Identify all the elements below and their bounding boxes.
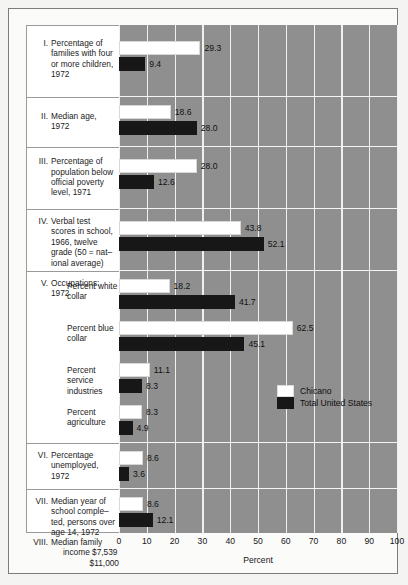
section-number: I. (31, 38, 48, 48)
gridline-70 (314, 25, 315, 533)
bar-value-label: 45.1 (248, 337, 265, 351)
category-label-v: V.Occupations:1972Percent whitecollarPer… (27, 272, 119, 444)
section-viii-note: VIII. Median family income $7,539 $11,00… (26, 537, 121, 568)
bar-value-label: 11.1 (154, 363, 170, 377)
x-tick-10: 10 (142, 536, 152, 546)
bar-chicano (119, 279, 170, 293)
bar-value-label: 4.9 (137, 421, 149, 435)
legend-label-chicano: Chicano (300, 385, 332, 397)
bar-total-us (119, 513, 153, 527)
x-tick-90: 90 (364, 536, 374, 546)
x-axis-ticks: 0102030405060708090100 (119, 536, 397, 548)
section-separator (119, 270, 397, 271)
category-label-iii: III.Percentage ofpopulation belowofficia… (27, 148, 119, 210)
section-title: Verbal testscores in school,1966, twelve… (51, 216, 113, 268)
bar-chicano (119, 497, 143, 511)
bar-value-label: 8.3 (146, 405, 158, 419)
bar-total-us (119, 421, 133, 435)
subcategory-label: Percent bluecollar (67, 323, 114, 344)
section-viii-line1: Median family (51, 537, 102, 547)
bar-chicano (119, 41, 200, 55)
section-viii-line3: $11,000 (51, 558, 121, 568)
bar-value-label: 12.6 (158, 175, 175, 189)
gridline-50 (258, 25, 259, 533)
bar-chicano (119, 221, 241, 235)
x-tick-70: 70 (309, 536, 319, 546)
category-label-ii: II.Median age,1972 (27, 98, 119, 148)
x-tick-30: 30 (198, 536, 208, 546)
category-label-column: I.Percentage offamilies with fouror more… (26, 25, 119, 533)
section-number: III. (31, 156, 48, 166)
category-label-text: I.Percentage offamilies with fouror more… (31, 38, 113, 80)
subcategory-label: Percent whitecollar (67, 281, 117, 302)
legend-swatch-chicano (277, 385, 294, 397)
section-title: Percentage offamilies with fouror more c… (51, 38, 113, 80)
bar-total-us (119, 295, 235, 309)
subcategory-label: Percentagriculture (67, 407, 106, 428)
chart-page: 29.39.418.628.028.012.643.852.118.241.76… (0, 0, 408, 585)
bar-value-label: 41.7 (239, 295, 256, 309)
section-title: Percentageunemployed,1972 (51, 450, 99, 481)
section-number: VII. (31, 496, 48, 506)
bar-value-label: 18.6 (175, 105, 192, 119)
gridline-30 (202, 25, 203, 533)
legend-swatch-total-us (277, 397, 294, 409)
section-separator (119, 488, 397, 489)
bar-total-us (119, 121, 197, 135)
category-label-vii: VII.Median year ofschool comple–ted, per… (27, 490, 119, 536)
section-separator (119, 208, 397, 209)
category-label-text: III.Percentage ofpopulation belowofficia… (31, 156, 113, 198)
category-label-text: IV.Verbal testscores in school,1966, twe… (31, 216, 113, 268)
category-label-vi: VI.Percentageunemployed,1972 (27, 444, 119, 490)
subcategory-label: Percent serviceindustries (67, 365, 119, 396)
legend-label-total-us: Total United States (300, 397, 372, 409)
bar-chicano (119, 105, 171, 119)
section-number: V. (31, 278, 48, 288)
x-tick-80: 80 (337, 536, 347, 546)
bar-chicano (119, 363, 150, 377)
bar-total-us (119, 175, 154, 189)
bar-total-us (119, 467, 129, 481)
gridline-90 (369, 25, 370, 533)
bar-value-label: 3.6 (133, 467, 145, 481)
bar-value-label: 29.3 (204, 41, 221, 55)
x-tick-100: 100 (390, 536, 404, 546)
category-label-i: I.Percentage offamilies with fouror more… (27, 26, 119, 98)
plot-area: 29.39.418.628.028.012.643.852.118.241.76… (119, 25, 397, 533)
bar-value-label: 62.5 (297, 321, 314, 335)
bar-value-label: 28.0 (201, 159, 218, 173)
bar-value-label: 12.1 (157, 513, 174, 527)
gridline-60 (286, 25, 287, 533)
bar-value-label: 43.8 (245, 221, 262, 235)
bar-value-label: 8.6 (147, 451, 159, 465)
category-label-text: VI.Percentageunemployed,1972 (31, 450, 99, 481)
section-number: II. (31, 111, 48, 121)
bar-chicano (119, 159, 197, 173)
section-title: Median age,1972 (51, 111, 97, 132)
bar-value-label: 8.3 (146, 379, 158, 393)
bar-chicano (119, 321, 293, 335)
section-number: VI. (31, 450, 48, 460)
bar-total-us (119, 237, 264, 251)
gridline-100 (397, 25, 398, 533)
bar-value-label: 28.0 (201, 121, 218, 135)
section-number: IV. (31, 216, 48, 226)
category-label-text: II.Median age,1972 (31, 111, 97, 132)
x-tick-60: 60 (281, 536, 291, 546)
category-label-text: VII.Median year ofschool comple–ted, per… (31, 496, 115, 538)
category-label-iv: IV.Verbal testscores in school,1966, twe… (27, 210, 119, 272)
x-tick-50: 50 (253, 536, 263, 546)
x-tick-40: 40 (225, 536, 235, 546)
section-separator (119, 96, 397, 97)
bar-value-label: 8.6 (147, 497, 159, 511)
bar-chicano (119, 451, 143, 465)
bar-chicano (119, 405, 142, 419)
bar-total-us (119, 57, 145, 71)
section-viii-line2: income $7,539 (51, 547, 121, 557)
section-title: Median year ofschool comple–ted, persons… (51, 496, 115, 538)
bar-value-label: 18.2 (174, 279, 191, 293)
section-viii-number: VIII. (26, 537, 48, 547)
gridline-80 (341, 25, 342, 533)
section-title: Percentage ofpopulation belowofficial po… (51, 156, 113, 198)
bar-total-us (119, 379, 142, 393)
